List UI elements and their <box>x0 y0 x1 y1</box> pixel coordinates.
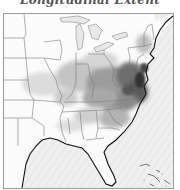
map-title: Longitudinal Extent <box>0 0 180 7</box>
map-frame <box>3 13 174 189</box>
us-east-map <box>4 14 173 188</box>
